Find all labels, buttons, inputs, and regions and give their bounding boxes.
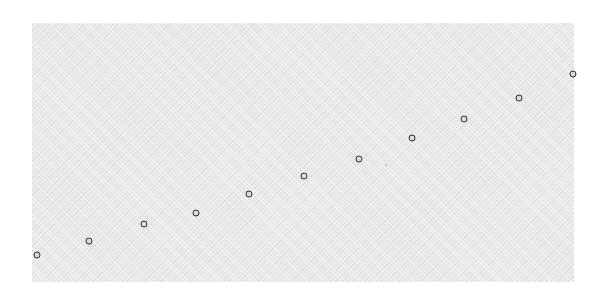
scatter-plot-figure — [0, 0, 608, 300]
data-point-marker — [246, 191, 253, 198]
data-point-marker — [409, 135, 416, 142]
data-point-marker — [516, 95, 523, 102]
data-point-marker — [86, 238, 93, 245]
data-point-marker — [193, 210, 200, 217]
data-point-marker — [570, 71, 577, 78]
data-point-marker — [461, 116, 468, 123]
data-point-marker — [141, 221, 148, 228]
plot-panel — [32, 23, 574, 282]
data-point-marker — [356, 156, 363, 163]
data-point-marker — [301, 173, 308, 180]
faint-speck — [385, 164, 387, 166]
data-point-marker — [34, 252, 41, 259]
